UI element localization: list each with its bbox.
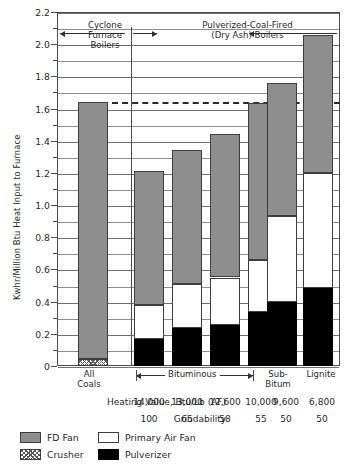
pulverized-group-span-left — [133, 33, 157, 34]
y-tick-label: 0.8 — [10, 232, 50, 243]
y-tick-label: 0 — [10, 361, 50, 372]
y-tick-minor — [53, 350, 57, 351]
bar-6-800 — [303, 35, 333, 366]
gridline — [58, 13, 339, 14]
y-tick-minor — [53, 221, 57, 222]
gridline — [58, 61, 339, 62]
bar-segment-fd-fan — [210, 134, 240, 277]
y-tick — [51, 12, 57, 13]
y-tick-label: 1.2 — [10, 167, 50, 178]
y-tick — [51, 205, 57, 206]
y-tick — [51, 237, 57, 238]
bar-segment-fd-fan — [267, 83, 297, 217]
y-tick — [51, 366, 57, 367]
bar-segment-primary-air-fan — [134, 305, 164, 340]
y-tick-label: 1.4 — [10, 135, 50, 146]
bar-segment-pulverizer — [210, 325, 240, 366]
y-tick-label: 0.6 — [10, 264, 50, 275]
bar-segment-primary-air-fan — [172, 284, 202, 328]
y-tick-label: 1.6 — [10, 103, 50, 114]
y-tick — [51, 302, 57, 303]
bituminous-left-cap — [136, 370, 137, 381]
bar-all-coals — [78, 102, 108, 366]
bar-12-600 — [210, 134, 240, 366]
bar-segment-primary-air-fan — [210, 278, 240, 325]
gridline — [58, 77, 339, 78]
legend-swatch-crusher — [20, 449, 41, 460]
legend-label-pulverizer: Pulverizer — [125, 449, 171, 460]
legend-label-crusher: Crusher — [47, 449, 83, 460]
bar-segment-fd-fan — [303, 35, 333, 173]
y-tick-minor — [53, 28, 57, 29]
category-label-sub-bitum-line1: Sub- — [257, 369, 299, 379]
legend-swatch-primary-air-fan — [98, 432, 119, 443]
y-tick-minor — [53, 125, 57, 126]
bar-segment-pulverizer — [172, 328, 202, 366]
y-tick-label: 1.0 — [10, 200, 50, 211]
y-tick-minor — [53, 286, 57, 287]
cyclone-group-span — [60, 33, 125, 34]
y-tick — [51, 141, 57, 142]
bar-segment-fd-fan — [78, 102, 108, 359]
section-divider — [131, 27, 132, 366]
gridline — [58, 367, 339, 368]
y-tick-minor — [53, 157, 57, 158]
bar-segment-crusher — [78, 359, 108, 366]
legend-swatch-pulverizer — [98, 449, 119, 460]
coal-energy-bar-chart: Kwhr/Million Btu Heat Input to Furnace C… — [0, 0, 350, 467]
y-tick-minor — [53, 92, 57, 93]
bituminous-right-cap — [253, 370, 254, 381]
bar-segment-primary-air-fan — [267, 216, 297, 302]
bar-9-600 — [267, 83, 297, 366]
y-tick-label: 2.0 — [10, 39, 50, 50]
y-tick-minor — [53, 189, 57, 190]
y-tick-label: 2.2 — [10, 7, 50, 18]
bar-segment-fd-fan — [172, 150, 202, 284]
annotation-bituminous: Bituminous — [165, 369, 220, 379]
category-label-all-coals-line2: Coals — [66, 379, 112, 389]
y-tick — [51, 76, 57, 77]
y-tick-minor — [53, 318, 57, 319]
y-tick — [51, 334, 57, 335]
category-label-all-coals-line1: All — [66, 369, 112, 379]
bar-segment-pulverizer — [303, 288, 333, 366]
y-tick — [51, 269, 57, 270]
pulverized-group-span-right — [249, 33, 337, 34]
grindability-cell: 50 — [300, 414, 344, 424]
annotation-pulverized-line1: Pulverized-Coal-Fired — [160, 20, 335, 31]
legend-label-primary-air-fan: Primary Air Fan — [125, 432, 196, 443]
y-tick-minor — [53, 60, 57, 61]
y-tick-label: 0.4 — [10, 296, 50, 307]
legend-label-fd-fan: FD Fan — [47, 432, 79, 443]
y-tick — [51, 44, 57, 45]
category-label-sub-bitum-line2: Bitum — [257, 379, 299, 389]
bar-14-000 — [134, 171, 164, 366]
bar-segment-primary-air-fan — [303, 173, 333, 288]
bar-13-000 — [172, 150, 202, 366]
y-tick-minor — [53, 253, 57, 254]
y-tick-label: 1.8 — [10, 71, 50, 82]
bar-segment-fd-fan — [134, 171, 164, 305]
y-tick-label: 0.2 — [10, 328, 50, 339]
y-tick — [51, 173, 57, 174]
y-tick — [51, 109, 57, 110]
category-label-lignite: Lignite — [299, 369, 343, 379]
bar-segment-pulverizer — [134, 339, 164, 366]
heating-value-cell: 6,800 — [300, 397, 344, 407]
bar-segment-pulverizer — [267, 302, 297, 366]
legend-swatch-fd-fan — [20, 432, 41, 443]
